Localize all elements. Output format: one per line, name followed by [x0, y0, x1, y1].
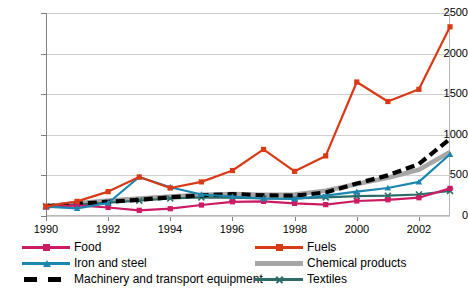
legend-dash: [24, 277, 37, 282]
legend-swatch-icon: [22, 241, 70, 254]
legend-swatch-icon: [255, 241, 303, 254]
legend-dash: [48, 277, 61, 282]
x-tick-label: 1994: [150, 223, 190, 235]
x-tick-label: 1990: [26, 223, 66, 235]
legend-item[interactable]: Chemical products: [255, 256, 465, 271]
y-tick-label: 1500: [430, 88, 468, 99]
legend-swatch-icon: [22, 273, 70, 286]
gridline: [47, 135, 450, 136]
y-tick-mark: [41, 13, 46, 14]
y-tick-label: 0: [430, 210, 468, 221]
y-tick-label: 1000: [430, 129, 468, 140]
x-tick-mark: [419, 217, 420, 221]
legend-label: Machinery and transport equipment: [74, 273, 263, 286]
x-tick-mark: [295, 217, 296, 221]
x-tick-mark: [357, 217, 358, 221]
legend-item[interactable]: Fuels: [255, 240, 465, 255]
plot-area: [46, 13, 450, 216]
legend-marker-square-icon: [43, 244, 50, 251]
legend-label: Iron and steel: [74, 257, 147, 270]
y-tick-label: 2500: [430, 7, 468, 18]
legend-marker-triangle-icon: [43, 260, 51, 267]
legend-swatch-icon: [255, 273, 303, 286]
chart-container: 05001000150020002500 1990199219941996199…: [0, 0, 468, 288]
legend-item[interactable]: Food: [22, 240, 272, 255]
legend-label: Textiles: [307, 273, 347, 286]
legend-item[interactable]: Iron and steel: [22, 256, 272, 271]
legend-line: [255, 261, 303, 266]
legend-item[interactable]: Machinery and transport equipment: [22, 272, 272, 287]
x-tick-mark: [170, 217, 171, 221]
x-tick-mark: [232, 217, 233, 221]
legend-marker-square-icon: [276, 244, 283, 251]
y-tick-label: 2000: [430, 48, 468, 59]
x-tick-label: 2002: [399, 223, 439, 235]
legend-marker-x-icon: [275, 275, 284, 284]
legend-swatch-icon: [22, 257, 70, 270]
y-tick-mark: [41, 94, 46, 95]
legend-swatch-icon: [255, 257, 303, 270]
x-tick-label: 1992: [88, 223, 128, 235]
x-tick-label: 2000: [337, 223, 377, 235]
legend-label: Chemical products: [307, 257, 406, 270]
x-tick-mark: [46, 217, 47, 221]
gridline: [47, 175, 450, 176]
x-tick-label: 1998: [275, 223, 315, 235]
x-tick-label: 1996: [212, 223, 252, 235]
legend-column-left: FoodIron and steelMachinery and transpor…: [22, 240, 272, 288]
gridline: [47, 54, 450, 55]
y-axis-line: [46, 13, 47, 216]
chart-legend: FoodIron and steelMachinery and transpor…: [0, 240, 468, 288]
gridline: [47, 13, 450, 14]
legend-label: Food: [74, 241, 101, 254]
y-tick-mark: [41, 54, 46, 55]
y-tick-mark: [41, 175, 46, 176]
legend-column-right: FuelsChemical productsTextiles: [255, 240, 465, 288]
y-tick-mark: [41, 135, 46, 136]
legend-item[interactable]: Textiles: [255, 272, 465, 287]
legend-label: Fuels: [307, 241, 336, 254]
y-tick-label: 500: [430, 169, 468, 180]
x-tick-mark: [108, 217, 109, 221]
gridline: [47, 94, 450, 95]
